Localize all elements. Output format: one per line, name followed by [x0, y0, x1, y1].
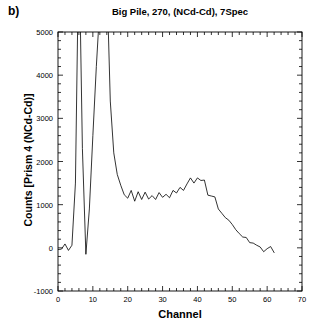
figure-panel: b) Big Pile, 270, (NCd-Cd), 7Spec Counts… [0, 0, 320, 326]
svg-text:3000: 3000 [36, 114, 53, 123]
svg-text:30: 30 [158, 295, 166, 304]
svg-text:0: 0 [49, 244, 53, 253]
svg-text:50: 50 [228, 295, 236, 304]
data-series-group [58, 0, 274, 254]
x-axis-tick-labels: 010203040506070 [56, 295, 306, 304]
svg-text:2000: 2000 [36, 158, 53, 167]
axis-frame [58, 32, 302, 291]
svg-text:70: 70 [298, 295, 306, 304]
svg-text:5000: 5000 [36, 28, 53, 37]
x-axis-ticks [58, 32, 302, 291]
svg-text:1000: 1000 [36, 201, 53, 210]
y-axis-ticks [58, 32, 302, 291]
svg-text:40: 40 [193, 295, 201, 304]
y-axis-tick-labels: -1000010002000300040005000 [34, 28, 53, 296]
svg-text:10: 10 [89, 295, 97, 304]
svg-text:-1000: -1000 [34, 287, 53, 296]
svg-text:4000: 4000 [36, 71, 53, 80]
svg-text:20: 20 [124, 295, 132, 304]
plot-area: 010203040506070 -10000100020003000400050… [0, 0, 320, 326]
series-line-counts [58, 0, 274, 254]
svg-text:60: 60 [263, 295, 271, 304]
svg-text:0: 0 [56, 295, 60, 304]
